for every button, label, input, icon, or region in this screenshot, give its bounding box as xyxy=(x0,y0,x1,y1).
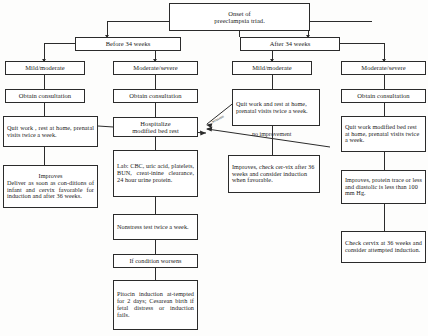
node-hospitalize-line2: modified bed rest xyxy=(116,127,195,134)
connector-c1-c xyxy=(44,147,45,165)
node-improves-check-cervix-c3[interactable]: Improves, check cer-vix after 36 weeks a… xyxy=(228,155,320,193)
node-obtain-consultation-c1[interactable]: Obtain consultation xyxy=(5,89,85,103)
connector-before-to-c1-h xyxy=(44,43,75,44)
node-check-cervix-36-weeks-label: Check cervix at 36 weeks and consider at… xyxy=(345,240,422,254)
node-quit-work-rest-c3[interactable]: Quit work and rest at home, prenatal vis… xyxy=(232,89,320,126)
connector-c3-a xyxy=(272,75,273,89)
node-improves-deliver-c1[interactable]: Improves Deliver as soon as con-ditions … xyxy=(3,165,98,208)
node-quit-work-rest-c1[interactable]: Quit work , rest at home, prenatal visit… xyxy=(3,116,98,147)
connector-c2-f xyxy=(155,268,156,280)
node-mild-moderate-left-label: Mild/moderate xyxy=(8,64,82,71)
node-pitocin-induction-label: Pitocin induction at-tempted for 2 days;… xyxy=(117,291,194,319)
node-hospitalize[interactable]: Hospitalize modified bed rest xyxy=(113,117,198,137)
node-nonstress-test-label: Nonstress test twice a week. xyxy=(117,224,194,231)
node-moderate-severe-left[interactable]: Moderate/severe xyxy=(113,61,198,75)
node-after-34-weeks[interactable]: After 34 weeks xyxy=(240,37,340,51)
node-lab-panel[interactable]: Lab: CBC, uric acid, platelets, BUN, cre… xyxy=(113,150,198,197)
node-obtain-consultation-c4-label: Obtain consultation xyxy=(344,92,423,99)
flowchart-canvas: no improvement worsens Onset of preeclam… xyxy=(0,0,428,336)
node-obtain-consultation-c4[interactable]: Obtain consultation xyxy=(341,89,426,103)
connector-root-to-before-h xyxy=(107,21,171,22)
connector-root-to-after-h xyxy=(308,21,372,22)
node-improves-protein-c4[interactable]: Improves, protein trace or less and dias… xyxy=(341,170,426,204)
edge-label-no-improvement: no improvement xyxy=(252,131,292,137)
connector-c2-a xyxy=(155,75,156,89)
connector-c4-d xyxy=(384,204,385,231)
node-after-34-label: After 34 weeks xyxy=(243,40,337,47)
node-quit-work-bedrest-c4[interactable]: Quit work modified bed rest at home, pre… xyxy=(341,116,426,152)
node-hospitalize-line1: Hospitalize xyxy=(116,120,195,127)
node-obtain-consultation-c2-label: Obtain consultation xyxy=(116,92,195,99)
node-mild-moderate-left[interactable]: Mild/moderate xyxy=(5,61,85,75)
node-if-condition-worsens-label: If condition worsens xyxy=(116,258,195,265)
node-check-cervix-36-weeks[interactable]: Check cervix at 36 weeks and consider at… xyxy=(341,231,426,263)
connector-c4-b xyxy=(384,103,385,116)
node-quit-work-rest-c3-label: Quit work and rest at home, prenatal vis… xyxy=(236,101,316,115)
node-mild-moderate-right[interactable]: Mild/moderate xyxy=(232,61,312,75)
node-moderate-severe-right-label: Moderate/severe xyxy=(344,64,423,71)
node-improves-c1-body: Deliver as soon as con-ditions of infant… xyxy=(7,180,94,201)
node-quit-work-rest-c1-label: Quit work , rest at home, prenatal visit… xyxy=(7,125,94,139)
node-before-34-weeks[interactable]: Before 34 weeks xyxy=(75,37,181,51)
node-obtain-consultation-c2[interactable]: Obtain consultation xyxy=(113,89,198,103)
node-onset-line2: preeclampsia triad. xyxy=(172,17,307,24)
node-before-34-label: Before 34 weeks xyxy=(78,40,178,47)
connector-c2-d xyxy=(155,197,156,214)
node-lab-panel-label: Lab: CBC, uric acid, platelets, BUN, cre… xyxy=(117,163,194,184)
node-if-condition-worsens[interactable]: If condition worsens xyxy=(113,254,198,268)
node-pitocin-induction[interactable]: Pitocin induction at-tempted for 2 days;… xyxy=(113,280,198,330)
connector-c2-c xyxy=(155,137,156,150)
node-mild-moderate-right-label: Mild/moderate xyxy=(235,64,309,71)
node-improves-protein-c4-label: Improves, protein trace or less and dias… xyxy=(345,177,422,198)
connector-c2-e xyxy=(155,240,156,254)
edge-label-worsens: worsens xyxy=(211,114,225,124)
node-onset-preeclampsia[interactable]: Onset of preeclampsia triad. xyxy=(169,3,310,31)
node-quit-work-bedrest-c4-label: Quit work modified bed rest at home, pre… xyxy=(345,124,422,145)
node-obtain-consultation-c1-label: Obtain consultation xyxy=(8,92,82,99)
node-onset-line1: Onset of xyxy=(172,10,307,17)
node-nonstress-test[interactable]: Nonstress test twice a week. xyxy=(113,214,198,240)
node-moderate-severe-right[interactable]: Moderate/severe xyxy=(341,61,426,75)
connector-c1-b xyxy=(44,103,45,116)
connector-c2-b xyxy=(155,103,156,117)
connector-after-to-c4-h xyxy=(340,43,384,44)
connector-c1-a xyxy=(44,75,45,89)
connector-c4-c xyxy=(384,152,385,170)
node-improves-check-cervix-c3-label: Improves, check cer-vix after 36 weeks a… xyxy=(232,164,316,185)
node-moderate-severe-left-label: Moderate/severe xyxy=(116,64,195,71)
connector-c4-a xyxy=(384,75,385,89)
